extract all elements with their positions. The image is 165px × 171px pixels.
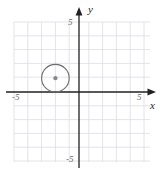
x-tick-label-negative-5: -5 <box>12 93 20 102</box>
y-tick-label-negative-5: -5 <box>66 155 74 164</box>
x-tick-label-positive-5: 5 <box>137 93 142 102</box>
x-axis-label: x <box>150 100 155 111</box>
y-axis-arrowhead <box>76 7 83 16</box>
coordinate-plane-svg <box>0 0 165 171</box>
y-axis-label: y <box>88 4 93 15</box>
circle-center-point <box>53 76 57 80</box>
x-axis-arrowhead <box>148 89 157 96</box>
graph-figure: y x -5 5 5 -5 <box>0 0 165 171</box>
y-tick-label-positive-5: 5 <box>68 18 73 27</box>
